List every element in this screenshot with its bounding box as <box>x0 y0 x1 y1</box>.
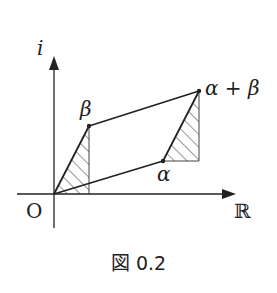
point-alpha-plus-beta <box>197 89 201 93</box>
imaginary-axis-label: i <box>37 38 43 58</box>
real-axis-label: ℝ <box>234 201 251 221</box>
point-beta <box>87 124 91 128</box>
figure-caption: 図 0.2 <box>0 248 277 275</box>
real-axis-arrow-icon <box>222 189 236 199</box>
segment-beta-sum <box>89 91 199 126</box>
alpha-plus-beta-label: α + β <box>205 78 260 98</box>
origin-label: O <box>26 201 42 221</box>
alpha-label: α <box>157 164 171 184</box>
imaginary-axis-arrow-icon <box>49 56 59 70</box>
beta-label: β <box>80 99 92 119</box>
